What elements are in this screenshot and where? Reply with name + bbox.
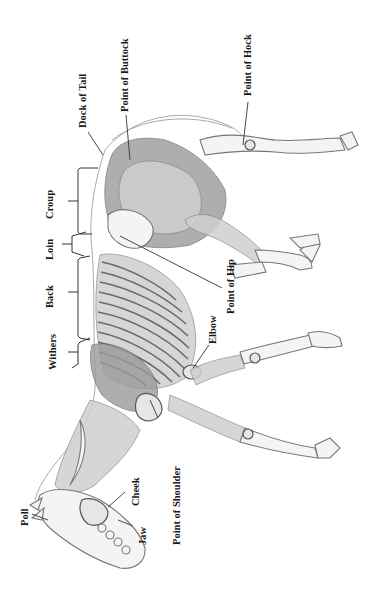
fore-leg-lower — [168, 395, 340, 458]
label-back: Back — [44, 285, 55, 308]
label-loin: Loin — [44, 239, 55, 260]
label-withers: Withers — [47, 334, 58, 370]
hind-leg-upper — [200, 132, 358, 155]
label-jaw: Jaw — [137, 527, 148, 546]
loin-brace — [62, 232, 86, 256]
label-point-of-shoulder: Point of Shoulder — [171, 466, 182, 545]
withers-brace — [68, 338, 90, 368]
back-brace — [68, 256, 90, 340]
label-point-of-hip: Point of Hip — [225, 259, 236, 314]
neck-muscles — [55, 400, 140, 493]
label-poll: Poll — [19, 508, 30, 526]
hind-leg-lower — [185, 215, 320, 278]
label-cheek: Cheek — [130, 477, 141, 506]
dock-of-tail-leader — [88, 132, 103, 155]
horse-anatomy-diagram: Dock of Tail Point of Buttock Point of H… — [0, 0, 372, 600]
label-point-of-hock: Point of Hock — [242, 34, 253, 96]
shoulder-joint — [136, 393, 163, 420]
label-croup: Croup — [44, 190, 55, 219]
croup-brace — [68, 168, 98, 234]
cheek-leader — [108, 492, 125, 507]
label-elbow: Elbow — [207, 315, 218, 344]
label-dock-of-tail: Dock of Tail — [77, 74, 88, 128]
label-point-of-buttock: Point of Buttock — [119, 38, 130, 112]
